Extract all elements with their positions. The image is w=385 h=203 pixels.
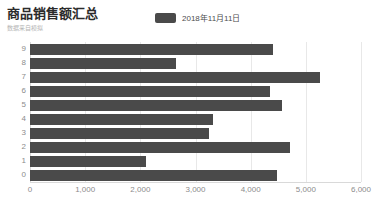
y-tick-label: 0 (2, 170, 26, 180)
bar-row[interactable] (30, 128, 209, 139)
bar-5[interactable] (30, 100, 282, 111)
y-tick-label: 4 (2, 114, 26, 124)
bar-6[interactable] (30, 86, 270, 97)
y-tick-label: 7 (2, 72, 26, 82)
title-block: 商品销售额汇总 数据来自模拟 (7, 6, 98, 33)
bar-row[interactable] (30, 156, 146, 167)
chart-title: 商品销售额汇总 (7, 6, 98, 21)
chart-subtitle: 数据来自模拟 (7, 24, 98, 33)
legend-label: 2018年11月11日 (182, 12, 240, 23)
bar-3[interactable] (30, 128, 209, 139)
gridline (196, 42, 197, 182)
bar-8[interactable] (30, 58, 176, 69)
x-axis-tick-labels: 01,0002,0003,0004,0005,0006,000 (0, 184, 385, 198)
legend-item[interactable]: 2018年11月11日 (155, 12, 240, 23)
legend-swatch-icon (155, 13, 176, 23)
plot-area (30, 42, 361, 182)
x-tick-label: 5,000 (296, 184, 316, 195)
bar-row[interactable] (30, 170, 277, 181)
y-tick-label: 2 (2, 142, 26, 152)
x-tick-label: 3,000 (185, 184, 205, 195)
y-tick-label: 9 (2, 44, 26, 54)
chart-legend: 2018年11月11日 (155, 11, 240, 24)
y-axis-tick-labels: 9876543210 (0, 42, 26, 182)
y-tick-label: 1 (2, 156, 26, 166)
x-tick-label: 0 (28, 184, 32, 195)
gridline (306, 42, 307, 182)
bar-row[interactable] (30, 114, 213, 125)
x-tick-label: 2,000 (130, 184, 150, 195)
bar-9[interactable] (30, 44, 273, 55)
bar-row[interactable] (30, 100, 282, 111)
bar-row[interactable] (30, 58, 176, 69)
bar-row[interactable] (30, 142, 290, 153)
y-tick-label: 8 (2, 58, 26, 68)
bar-row[interactable] (30, 44, 273, 55)
gridline (361, 42, 362, 182)
bar-row[interactable] (30, 86, 270, 97)
gridline (251, 42, 252, 182)
x-axis-line (30, 182, 361, 183)
bar-2[interactable] (30, 142, 290, 153)
y-tick-label: 3 (2, 128, 26, 138)
bar-0[interactable] (30, 170, 277, 181)
y-tick-label: 5 (2, 100, 26, 110)
y-tick-label: 6 (2, 86, 26, 96)
chart-header: 商品销售额汇总 数据来自模拟 2018年11月11日 (0, 0, 385, 40)
bar-row[interactable] (30, 72, 320, 83)
x-tick-label: 1,000 (75, 184, 95, 195)
bar-4[interactable] (30, 114, 213, 125)
bar-1[interactable] (30, 156, 146, 167)
x-tick-label: 6,000 (351, 184, 371, 195)
bar-chart-widget: 商品销售额汇总 数据来自模拟 2018年11月11日 9876543210 01… (0, 0, 385, 203)
x-tick-label: 4,000 (241, 184, 261, 195)
bar-7[interactable] (30, 72, 320, 83)
